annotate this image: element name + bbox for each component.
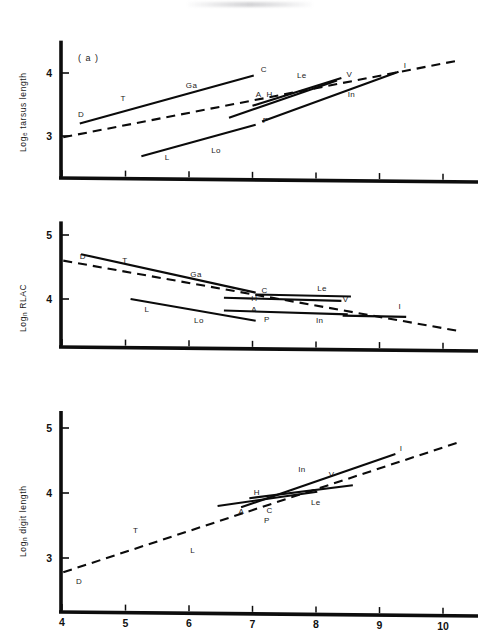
panel-b-plot: 45DTGaCLLoPHLeVAInI: [0, 195, 485, 390]
series-label-V: V: [343, 295, 349, 304]
panel-a-y-axis-label: Loge tarsus length: [18, 72, 28, 152]
y-label-sub-c: n: [21, 537, 28, 541]
y-tick-label-3: 3: [46, 130, 52, 142]
panel-a-plot: 34( a )DTGaCLLoPAHLeVInI: [0, 0, 485, 195]
panel-b: 45DTGaCLLoPHLeVAInI Logn RLAC: [0, 195, 485, 390]
series-label-Ga: Ga: [190, 270, 202, 279]
x-tick-label-8: 8: [313, 618, 319, 630]
series-line-Ga: [81, 254, 256, 292]
series-label-C: C: [261, 65, 267, 74]
series-label-L: L: [190, 546, 195, 555]
series-label-In: In: [316, 316, 323, 325]
series-line-D: [63, 442, 459, 572]
series-label-Lo: Lo: [211, 146, 221, 155]
x-tick-label-10: 10: [437, 620, 449, 632]
series-label-Le: Le: [317, 284, 327, 293]
series-label-I: I: [399, 302, 402, 311]
x-axis-line: [59, 178, 478, 182]
series-label-T: T: [133, 526, 138, 535]
y-label-prefix-a: Log: [18, 136, 28, 152]
panel-a: 34( a )DTGaCLLoPAHLeVInI Loge tarsus len…: [0, 0, 485, 195]
series-label-In: In: [298, 465, 305, 474]
series-label-Ga: Ga: [186, 81, 198, 90]
y-tick-label-3: 3: [46, 552, 52, 564]
y-tick-label-5: 5: [46, 422, 52, 434]
series-label-Lo: Lo: [194, 316, 204, 325]
series-label-H: H: [266, 90, 272, 99]
x-axis-line: [59, 347, 478, 351]
series-line-A: [224, 311, 348, 315]
series-label-L: L: [145, 305, 150, 314]
x-tick-label-6: 6: [186, 617, 192, 629]
x-tick-label-7: 7: [250, 618, 256, 630]
series-label-A: A: [256, 90, 262, 99]
panel-b-y-axis-label: Logn RLAC: [18, 284, 28, 332]
series-label-I: I: [404, 61, 407, 70]
y-label-sub-a: e: [21, 132, 28, 136]
series-line-L: [141, 125, 255, 157]
series-label-A: A: [251, 305, 257, 314]
series-line-D: [63, 261, 459, 331]
x-tick-label-5: 5: [123, 617, 129, 629]
series-line-I: [343, 316, 407, 317]
y-tick-label-4: 4: [46, 67, 52, 79]
y-label-suffix-c: digit length: [18, 486, 28, 537]
series-line-H: [224, 298, 341, 301]
y-label-suffix-b: RLAC: [18, 284, 28, 312]
series-label-I: I: [400, 444, 403, 453]
y-label-sub-b: n: [21, 312, 28, 316]
y-tick-label-4: 4: [46, 293, 52, 305]
panel-c-plot: 34545678910DTLVAHCPInILe: [0, 390, 485, 643]
series-line-Le: [256, 295, 351, 297]
series-label-In: In: [348, 90, 355, 99]
series-label-L: L: [165, 153, 170, 162]
series-label-V: V: [346, 70, 352, 79]
y-tick-label-5: 5: [46, 229, 52, 241]
figure-root: 34( a )DTGaCLLoPAHLeVInI Loge tarsus len…: [0, 0, 485, 643]
panel-label: ( a ): [78, 53, 99, 63]
series-label-T: T: [120, 94, 125, 103]
series-label-D: D: [76, 577, 82, 586]
series-label-C: C: [266, 506, 272, 515]
series-label-Le: Le: [311, 498, 321, 507]
panel-c-y-axis-label: Logn digit length: [18, 486, 28, 557]
x-tick-label-4: 4: [59, 616, 65, 628]
panel-c: 34545678910DTLVAHCPInILe Logn digit leng…: [0, 390, 485, 643]
series-label-D: D: [78, 110, 84, 119]
series-label-H: H: [254, 488, 260, 497]
series-label-Le: Le: [297, 71, 307, 80]
x-axis-line: [59, 612, 478, 616]
series-label-P: P: [264, 315, 270, 324]
y-label-prefix-b: Log: [18, 316, 28, 332]
series-label-P: P: [264, 516, 270, 525]
x-tick-label-9: 9: [377, 619, 383, 631]
y-label-suffix-a: tarsus length: [18, 72, 28, 131]
y-label-prefix-c: Log: [18, 541, 28, 557]
y-tick-label-4: 4: [46, 487, 52, 499]
